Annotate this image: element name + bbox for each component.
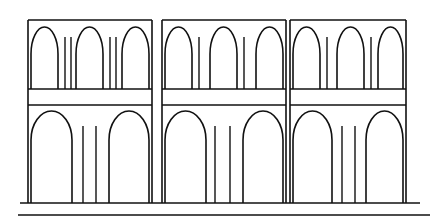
arcade-elevation-drawing [0, 0, 442, 223]
drawing-background [0, 0, 442, 223]
arcade-elevation-canvas [0, 0, 442, 223]
